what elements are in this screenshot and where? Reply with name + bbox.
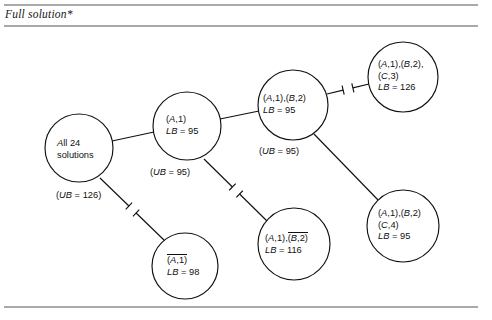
edge-root-to-a1bar [100,178,165,241]
edge-a1-to-a1b2bar [204,159,268,222]
edge-line [112,132,154,141]
edge-line-part-b [240,194,268,222]
node-a1-b2-c3-label-line: LB = 126 [378,82,423,94]
node-a1-b2-complement-label-line: LB = 116 [265,245,308,257]
edge-line-part-b [136,213,165,241]
node-a1-label-line: (A,1) [166,114,198,126]
bound-label-root: (UB = 126) [56,190,101,200]
node-a1-b2-c3-label-line: (C,3) [378,71,423,83]
node-all-solutions-label-line: solutions [57,150,94,162]
figure-title: Full solution* [5,8,73,20]
edge-line [220,111,259,119]
edge-line-part-a [204,159,232,187]
edge-a1-to-a1b2 [220,111,259,119]
node-a1-b2-label-line: LB = 95 [263,105,306,117]
node-a1-complement-label-line: LB = 98 [167,267,199,279]
node-all-solutions-label-line: All 24 [57,138,94,150]
node-a1-b2-label: (A,1),(B,2)LB = 95 [263,93,306,116]
node-a1-b2-c4-label-line: LB = 95 [378,231,421,243]
edge-root-to-a1 [112,132,154,141]
node-a1-b2-complement-label-line: (A,1),(B,2) [265,232,308,245]
edge-a1b2-to-a1b2c4 [314,134,379,201]
node-a1-b2-c4-label-line: (C,4) [378,220,421,232]
edge-line-part-a [327,90,343,94]
node-a1-complement-label-line: (A,1) [167,254,199,267]
node-a1-b2-label-line: (A,1),(B,2) [263,93,306,105]
edge-line-part-b [353,84,369,88]
node-a1-label: (A,1)LB = 95 [166,114,198,137]
bound-label-a1: (UB = 95) [150,167,190,177]
edge-a1b2-to-a1b2c3 [327,83,369,94]
bound-label-a1b2: (UB = 95) [259,146,299,156]
node-a1-b2-c3-label: (A,1),(B,2),(C,3)LB = 126 [378,59,423,94]
node-a1-complement-label: (A,1)LB = 98 [167,254,199,278]
figure-full-solution: Full solution* All 24solutions(A,1)LB = … [0,0,492,320]
edge-line-part-a [100,178,129,206]
node-a1-b2-c3-label-line: (A,1),(B,2), [378,59,423,71]
node-a1-label-line: LB = 95 [166,126,198,138]
tree-edges [100,83,379,241]
node-a1-b2-c4-label: (A,1),(B,2)(C,4)LB = 95 [378,208,421,243]
node-a1-b2-complement-label: (A,1),(B,2)LB = 116 [265,232,308,256]
node-all-solutions-label: All 24solutions [57,138,94,161]
node-a1-b2-c4-label-line: (A,1),(B,2) [378,208,421,220]
edge-line [314,134,379,201]
